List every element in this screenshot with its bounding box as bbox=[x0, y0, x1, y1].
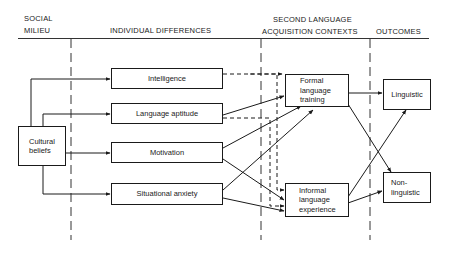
node-situational-anxiety: Situational anxiety bbox=[111, 183, 223, 205]
header-slac-line2: ACQUISITION CONTEXTS bbox=[262, 27, 358, 37]
node-intelligence-label: Intelligence bbox=[148, 74, 186, 84]
node-linguistic: Linguistic bbox=[383, 79, 431, 110]
node-formal-training-label: Formal language training bbox=[300, 76, 331, 105]
header-social-milieu-line1: SOCIAL bbox=[24, 14, 53, 24]
node-informal-experience-label: Informal language experience bbox=[299, 186, 336, 215]
node-situational-anxiety-label: Situational anxiety bbox=[137, 189, 198, 199]
node-intelligence: Intelligence bbox=[111, 68, 223, 89]
diagram-connectors bbox=[0, 0, 449, 255]
header-outcomes: OUTCOMES bbox=[376, 27, 421, 37]
node-cultural-beliefs: Cultural beliefs bbox=[18, 126, 66, 166]
node-informal-experience: Informal language experience bbox=[285, 183, 349, 217]
node-non-linguistic-label: Non- linguistic bbox=[391, 178, 420, 197]
node-non-linguistic: Non- linguistic bbox=[383, 172, 431, 203]
header-social-milieu-line2: MILIEU bbox=[24, 26, 50, 36]
node-motivation-label: Motivation bbox=[150, 148, 184, 158]
header-individual-differences: INDIVIDUAL DIFFERENCES bbox=[110, 26, 211, 36]
node-motivation: Motivation bbox=[111, 142, 223, 163]
node-formal-training: Formal language training bbox=[285, 74, 349, 107]
node-cultural-beliefs-label: Cultural beliefs bbox=[29, 137, 55, 156]
header-slac-line1: SECOND LANGUAGE bbox=[273, 15, 352, 25]
node-language-aptitude: Language aptitude bbox=[111, 103, 223, 124]
node-language-aptitude-label: Language aptitude bbox=[136, 109, 198, 119]
node-linguistic-label: Linguistic bbox=[391, 90, 422, 100]
